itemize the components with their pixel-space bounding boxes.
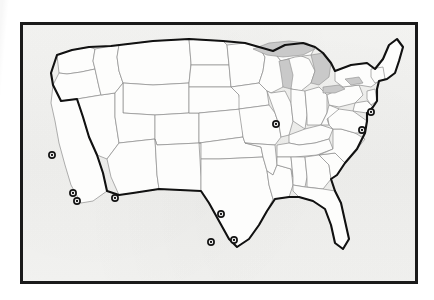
marker-center-dot <box>361 129 363 131</box>
marker-center-dot <box>72 192 74 194</box>
us-map-svg: San Francisco Bay AreaLos AngelesSan Die… <box>23 25 415 281</box>
map-marker[interactable]: New York City <box>368 109 374 115</box>
state-polygons <box>51 39 403 249</box>
map-marker[interactable]: Phoenix <box>112 195 118 201</box>
marker-center-dot <box>76 200 78 202</box>
map-marker[interactable]: San Diego <box>74 198 80 204</box>
marker-center-dot <box>114 197 116 199</box>
map-marker[interactable]: San Francisco Bay Area <box>49 152 55 158</box>
map-marker[interactable]: San Antonio <box>208 239 214 245</box>
marker-center-dot <box>220 213 222 215</box>
map-marker[interactable]: Chicago <box>273 121 279 127</box>
marker-center-dot <box>275 123 277 125</box>
map-marker[interactable]: Washington D.C. <box>359 127 365 133</box>
marker-center-dot <box>51 154 53 156</box>
map-marker[interactable]: Dallas <box>218 211 224 217</box>
marker-center-dot <box>370 111 372 113</box>
map-marker[interactable]: Houston <box>231 237 237 243</box>
marker-center-dot <box>210 241 212 243</box>
map-frame: San Francisco Bay AreaLos AngelesSan Die… <box>20 22 418 284</box>
marker-center-dot <box>233 239 235 241</box>
us-map-figure: San Francisco Bay AreaLos AngelesSan Die… <box>0 0 434 300</box>
map-marker[interactable]: Los Angeles <box>70 190 76 196</box>
